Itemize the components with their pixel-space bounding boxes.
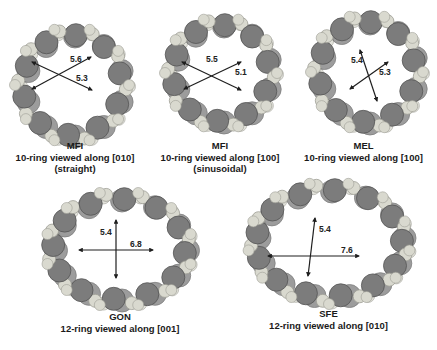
- caption-sfe-010: SFE 12-ring viewed along [010]: [220, 308, 437, 331]
- ring-description: 12-ring viewed along [001]: [20, 323, 220, 335]
- atom-spheres: [243, 178, 416, 309]
- caption-mel-100: MEL 10-ring viewed along [100]: [290, 140, 437, 163]
- atom-spheres: [10, 24, 136, 148]
- pore-ring-mfi-010: 5.65.3: [0, 0, 150, 130]
- panel-mfi-100: 5.55.1 MFI 10-ring viewed along [100] (s…: [140, 0, 300, 175]
- pore-ring-sfe-010: 5.47.6: [220, 175, 437, 310]
- pore-ring-mel-100: 5.45.3: [290, 0, 437, 130]
- panel-mel-100: 5.45.3 MEL 10-ring viewed along [100]: [290, 0, 437, 175]
- pore-dimension-label: 5.1: [235, 67, 247, 77]
- pore-dimension-label: 7.6: [341, 245, 353, 255]
- caption-mfi-010: MFI 10-ring viewed along [010] (straight…: [0, 140, 150, 175]
- dimension-arrow: [308, 218, 315, 276]
- panel-gon-001: 5.46.8 GON 12-ring viewed along [001]: [20, 175, 220, 350]
- caption-gon-001: GON 12-ring viewed along [001]: [20, 311, 220, 334]
- dimension-arrow: [184, 62, 241, 89]
- ring-description: 10-ring viewed along [100]: [290, 152, 437, 164]
- pore-ring-mfi-100: 5.55.1: [140, 0, 300, 130]
- pore-dimension-label: 5.3: [379, 67, 391, 77]
- pore-ring-gon-001: 5.46.8: [20, 175, 220, 310]
- channel-type: (straight): [0, 163, 150, 175]
- framework-code: GON: [20, 311, 220, 323]
- pore-dimension-label: 5.5: [206, 54, 218, 64]
- pore-dimension-label: 5.4: [351, 55, 363, 65]
- pore-dimension-label: 5.3: [76, 73, 88, 83]
- framework-code: MEL: [290, 140, 437, 152]
- caption-mfi-100: MFI 10-ring viewed along [100] (sinusoid…: [140, 140, 300, 175]
- ring-description: 10-ring viewed along [010]: [0, 152, 150, 164]
- ring-description: 12-ring viewed along [010]: [220, 320, 437, 332]
- panel-mfi-010: 5.65.3 MFI 10-ring viewed along [010] (s…: [0, 0, 150, 175]
- atom-spheres: [160, 14, 284, 134]
- framework-code: SFE: [220, 308, 437, 320]
- pore-dimension-label: 5.4: [319, 224, 331, 234]
- channel-type: (sinusoidal): [140, 163, 300, 175]
- pore-dimension-label: 6.8: [130, 239, 142, 249]
- framework-code: MFI: [140, 140, 300, 152]
- ring-description: 10-ring viewed along [100]: [140, 152, 300, 164]
- panel-sfe-010: 5.47.6 SFE 12-ring viewed along [010]: [220, 175, 437, 350]
- pore-dimension-label: 5.4: [100, 227, 112, 237]
- framework-code: MFI: [0, 140, 150, 152]
